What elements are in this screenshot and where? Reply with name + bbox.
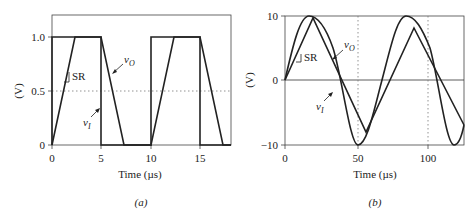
figure: SR vO vI 1.0 0.5 0 0 5 10 15 Time (µs) (… xyxy=(0,0,470,215)
sr-label-b: SR xyxy=(304,51,318,63)
xlabel-a: Time (µs) xyxy=(118,168,162,181)
xtick-label: 0 xyxy=(49,152,55,164)
ytick-label: 1.0 xyxy=(31,31,45,43)
series-vO-b xyxy=(285,18,464,132)
xtick-label: 100 xyxy=(420,152,437,164)
xtick-label: 15 xyxy=(195,152,207,164)
ytick-label: 0 xyxy=(273,74,279,86)
ylabel-b: (V) xyxy=(243,72,256,88)
xtick-label: 50 xyxy=(353,152,365,164)
xtick-label: 0 xyxy=(282,152,288,164)
vi-label-a: vI xyxy=(83,116,91,131)
caption-b: (b) xyxy=(369,196,382,209)
caption-a: (a) xyxy=(135,196,148,209)
series-vI-b xyxy=(285,16,464,145)
ytick-label: 10 xyxy=(267,10,279,22)
ytick-label: 0 xyxy=(40,139,46,151)
chart-a: SR vO vI 1.0 0.5 0 0 5 10 15 Time (µs) (… xyxy=(12,15,231,209)
vi-label-b: vI xyxy=(316,100,324,115)
sr-label-a: SR xyxy=(72,70,86,82)
xtick-label: 10 xyxy=(146,152,158,164)
ytick-label: 0.5 xyxy=(31,85,45,97)
ylabel-a: (V) xyxy=(12,83,25,99)
vo-label-a: vO xyxy=(124,53,135,68)
chart-b: SR vO vI 10 0 −10 0 50 100 Time (µs) (V)… xyxy=(243,10,464,209)
xlabel-b: Time (µs) xyxy=(353,168,397,181)
vo-label-b: vO xyxy=(344,38,355,53)
xtick-label: 5 xyxy=(98,152,104,164)
ytick-label: −10 xyxy=(261,139,279,151)
